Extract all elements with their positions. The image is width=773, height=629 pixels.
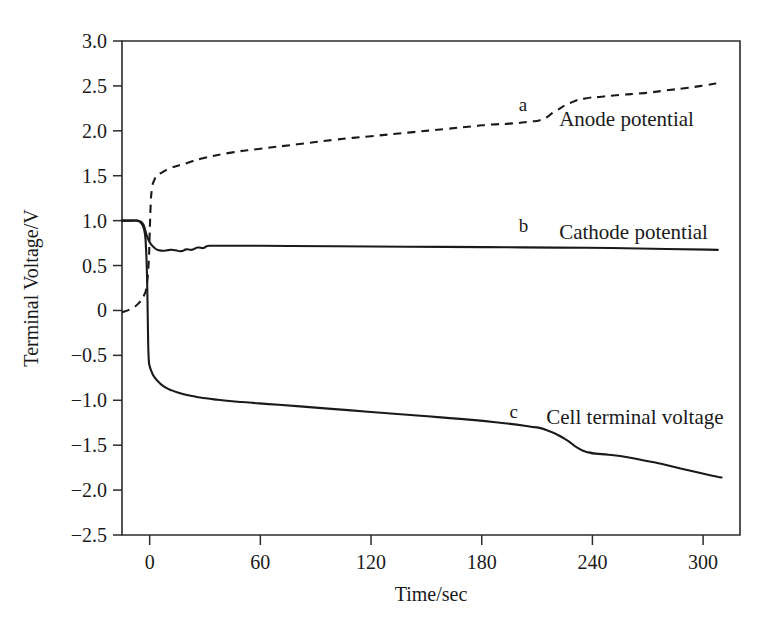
y-tick-label: −1.5 <box>71 434 107 456</box>
series-key-label: c <box>509 401 517 422</box>
chart-figure: 3.02.52.01.51.00.50−0.5−1.0−1.5−2.0−2.5 … <box>0 0 773 629</box>
y-tick-label: 3.0 <box>82 30 107 52</box>
x-axis-title: Time/sec <box>395 583 468 605</box>
x-axis-tick-labels: 060120180240300 <box>145 551 718 573</box>
x-tick-label: 300 <box>688 551 718 573</box>
x-tick-label: 180 <box>467 551 497 573</box>
series-name-label: Anode potential <box>559 107 694 131</box>
y-tick-label: 1.5 <box>82 165 107 187</box>
y-tick-label: −2.0 <box>71 479 107 501</box>
y-tick-label: 2.0 <box>82 120 107 142</box>
y-tick-label: 0.5 <box>82 255 107 277</box>
series-annotations: aAnode potentialbCathode potentialcCell … <box>509 94 723 429</box>
x-tick-label: 60 <box>250 551 270 573</box>
x-tick-label: 0 <box>145 551 155 573</box>
series-key-label: a <box>519 94 528 115</box>
y-tick-label: −0.5 <box>71 344 107 366</box>
series-name-label: Cell terminal voltage <box>546 405 723 429</box>
y-axis-title: Terminal Voltage/V <box>20 209 43 367</box>
x-tick-label: 240 <box>577 551 607 573</box>
y-tick-label: 1.0 <box>82 210 107 232</box>
x-axis-tick-marks <box>150 535 703 545</box>
y-tick-label: −1.0 <box>71 389 107 411</box>
series-curve-c <box>122 220 722 477</box>
y-axis-tick-labels: 3.02.52.01.51.00.50−0.5−1.0−1.5−2.0−2.5 <box>71 30 107 546</box>
y-axis-tick-marks <box>113 41 122 535</box>
y-tick-label: 2.5 <box>82 75 107 97</box>
x-tick-label: 120 <box>356 551 386 573</box>
y-tick-label: 0 <box>97 299 107 321</box>
series-key-label: b <box>519 215 529 236</box>
chart-canvas: 3.02.52.01.51.00.50−0.5−1.0−1.5−2.0−2.5 … <box>0 0 773 629</box>
series-name-label: Cathode potential <box>559 220 708 244</box>
y-tick-label: −2.5 <box>71 524 107 546</box>
